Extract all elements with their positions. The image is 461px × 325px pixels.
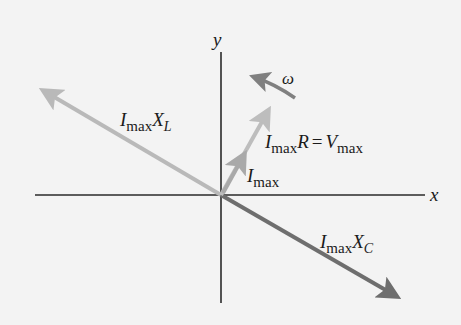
label-part: =	[309, 131, 326, 152]
capacitor-phasor-label: ImaxXC	[320, 232, 373, 251]
x-axis-label: x	[430, 185, 438, 204]
label-part: max	[126, 118, 152, 134]
y-axis-label: y	[213, 30, 221, 49]
label-part: max	[326, 240, 352, 256]
label-part: C	[364, 241, 373, 256]
diagram-canvas	[0, 0, 461, 325]
label-part: L	[164, 119, 172, 134]
omega-label: ω	[282, 70, 294, 87]
label-part: V	[325, 131, 337, 152]
current-phasor-label: Imax	[247, 166, 279, 185]
label-part: max	[271, 140, 297, 156]
inductor-phasor-arrow	[44, 91, 221, 195]
label-part: X	[152, 109, 164, 130]
inductor-phasor-label: ImaxXL	[120, 110, 172, 129]
label-part: max	[337, 140, 363, 156]
current-phasor-arrow	[223, 155, 244, 193]
resistor-phasor-label: ImaxR=Vmax	[265, 132, 363, 151]
phasor-diagram: y x ω ImaxXL ImaxR=Vmax Imax ImaxXC	[0, 0, 461, 325]
label-part: R	[297, 131, 309, 152]
label-part: max	[253, 174, 279, 190]
label-part: X	[352, 231, 364, 252]
